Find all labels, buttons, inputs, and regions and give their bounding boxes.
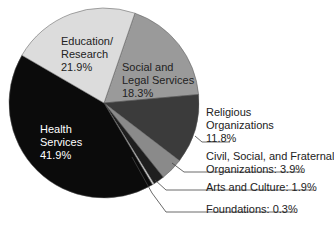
label-arts: Arts and Culture: 1.9% [206, 181, 317, 194]
label-civil: Civil, Social, and Fraternal Organizatio… [206, 150, 334, 176]
label-religious: Religious Organizations 11.8% [206, 106, 274, 145]
label-education: Education/ Research 21.9% [61, 35, 113, 74]
label-health: Health Services 41.9% [40, 123, 82, 162]
label-social-legal: Social and Legal Services 18.3% [122, 61, 194, 100]
label-foundations: Foundations: 0.3% [206, 203, 298, 216]
